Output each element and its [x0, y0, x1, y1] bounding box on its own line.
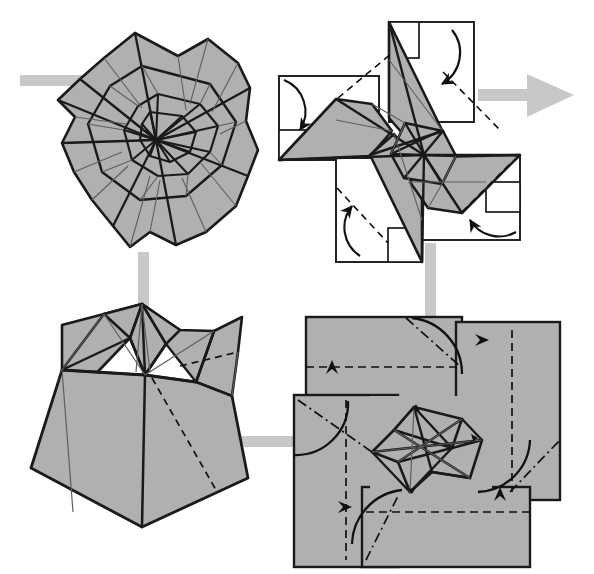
- origami-diagram-canvas: [0, 0, 594, 574]
- origami-diagram-root: Finished rosette, viewed from above Pinw…: [0, 0, 594, 574]
- panel-bottom-right: [294, 317, 560, 567]
- connector-right-column: [425, 243, 436, 323]
